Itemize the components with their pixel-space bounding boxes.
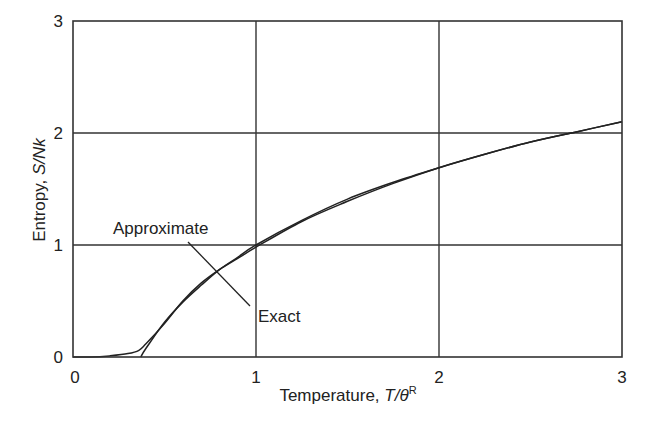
annotation-approximate: Approximate — [113, 219, 208, 238]
y-tick-label: 0 — [54, 348, 63, 367]
y-tick-label: 3 — [54, 12, 63, 31]
annotation-leaders — [188, 242, 250, 306]
data-curves — [73, 122, 622, 357]
plot-frame — [73, 21, 622, 357]
x-tick-label: 3 — [617, 368, 626, 387]
y-tick-label: 1 — [54, 236, 63, 255]
y-axis-label: Entropy, S/Nk — [30, 137, 49, 242]
grid-lines — [73, 21, 622, 357]
leader-line — [188, 242, 250, 306]
annotation-exact: Exact — [258, 307, 301, 326]
x-tick-label: 0 — [70, 368, 79, 387]
y-axis-ticks: 0123 — [54, 12, 63, 367]
entropy-chart: 0123 0123 Temperature, T/θR Entropy, S/N… — [0, 0, 664, 421]
x-axis-ticks: 0123 — [70, 368, 626, 387]
curve-exact — [73, 122, 622, 357]
y-tick-label: 2 — [54, 124, 63, 143]
x-axis-label: Temperature, T/θR — [279, 384, 416, 405]
x-tick-label: 1 — [251, 368, 260, 387]
x-tick-label: 2 — [434, 368, 443, 387]
curve-approximate — [141, 122, 622, 357]
